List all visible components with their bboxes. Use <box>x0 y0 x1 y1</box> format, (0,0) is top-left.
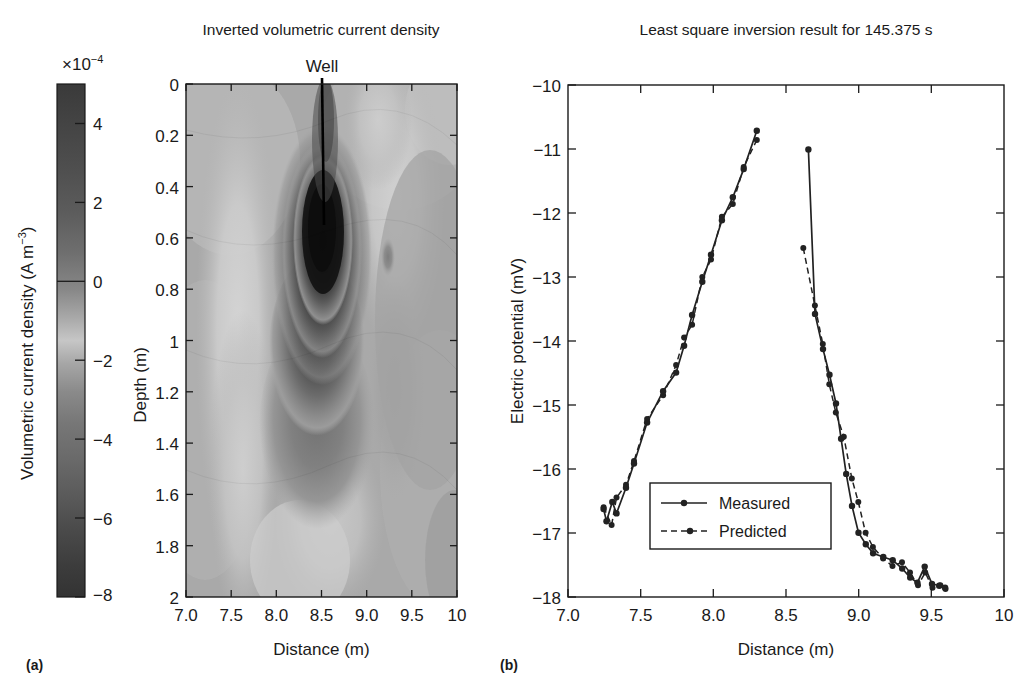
legend-measured-marker <box>681 500 687 506</box>
right-panel: Least square inversion result for 145.37… <box>508 21 1013 659</box>
left-xtick-label: 8.0 <box>264 606 288 625</box>
right-ytick-label: −12 <box>532 205 561 224</box>
right-xtick-label: 7.5 <box>629 606 653 625</box>
right-xtick-label: 7.0 <box>556 606 580 625</box>
right-panel-title: Least square inversion result for 145.37… <box>640 21 933 38</box>
colorbar-tick-label: −8 <box>93 586 112 605</box>
colorbar-tick-label: −2 <box>93 352 112 371</box>
legend-predicted-label: Predicted <box>719 523 787 540</box>
right-xtick-label: 9.5 <box>919 606 943 625</box>
right-ytick-label: −11 <box>533 141 561 160</box>
left-ytick-label: 0.8 <box>155 281 179 300</box>
colorbar-exponent: ×10−4 <box>62 53 103 74</box>
left-ytick-label: 0 <box>170 76 179 95</box>
right-xaxis: 7.0 7.5 8.0 8.5 9.0 9.5 10 Distance (m) <box>556 85 1013 659</box>
legend[interactable]: Measured Predicted <box>650 483 831 549</box>
right-xtick-label: 9.0 <box>847 606 871 625</box>
legend-measured-label: Measured <box>719 495 790 512</box>
left-panel: Inverted volumetric current density <box>131 21 500 659</box>
right-ytick-label: −17 <box>532 525 561 544</box>
measured-line-left <box>604 131 757 522</box>
left-ytick-label: 1 <box>170 333 179 352</box>
left-xtick-label: 9.0 <box>355 606 379 625</box>
left-ytick-label: 1.2 <box>155 384 179 403</box>
well-label: Well <box>306 57 339 76</box>
colorbar-group: ×10−4 4 2 0 −2 −4 −6 −8 Volumetric curre… <box>16 53 112 605</box>
right-xtick-label: 8.0 <box>701 606 725 625</box>
left-xtick-label: 9.5 <box>400 606 424 625</box>
colorbar-tick-label: 2 <box>93 194 102 213</box>
colorbar-tick-label: −6 <box>93 510 112 529</box>
legend-predicted-marker <box>687 528 693 534</box>
right-yaxis-label: Electric potential (mV) <box>508 258 527 424</box>
panel-b-label: (b) <box>500 657 518 673</box>
left-ytick-label: 2 <box>170 589 179 608</box>
left-ytick-label: 1.6 <box>155 486 179 505</box>
left-ytick-label: 0.4 <box>155 179 179 198</box>
right-ytick-label: −18 <box>532 589 561 608</box>
figure-svg: ×10−4 4 2 0 −2 −4 −6 −8 Volumetric curre… <box>0 0 1026 694</box>
right-xaxis-label: Distance (m) <box>738 640 834 659</box>
right-ytick-label: −15 <box>532 397 561 416</box>
left-xtick-label: 10 <box>448 606 467 625</box>
colorbar-gradient <box>57 84 85 597</box>
left-ytick-label: 1.8 <box>155 538 179 557</box>
left-yaxis-label: Depth (m) <box>131 347 150 423</box>
left-ytick-label: 1.4 <box>155 435 179 454</box>
left-xaxis-label: Distance (m) <box>273 640 369 659</box>
colorbar-tick-label: −4 <box>93 431 112 450</box>
right-ytick-label: −10 <box>532 77 561 96</box>
left-xtick-label: 8.5 <box>310 606 334 625</box>
left-ytick-label: 0.6 <box>155 230 179 249</box>
colorbar-axis-label: Volumetric current density (A m−3) <box>16 227 37 480</box>
right-ytick-label: −13 <box>532 269 561 288</box>
right-ytick-label: −16 <box>532 461 561 480</box>
colorbar-tick-label: 4 <box>93 115 102 134</box>
left-panel-title: Inverted volumetric current density <box>203 21 440 38</box>
left-ytick-label: 0.2 <box>155 127 179 146</box>
panel-a-label: (a) <box>26 657 43 673</box>
right-xtick-label: 8.5 <box>774 606 798 625</box>
figure-root: ×10−4 4 2 0 −2 −4 −6 −8 Volumetric curre… <box>0 0 1026 694</box>
right-ytick-label: −14 <box>532 333 561 352</box>
left-xtick-label: 7.5 <box>219 606 243 625</box>
right-xtick-label: 10 <box>995 606 1014 625</box>
left-xtick-label: 7.0 <box>174 606 198 625</box>
colorbar-tick-label: 0 <box>93 273 102 292</box>
